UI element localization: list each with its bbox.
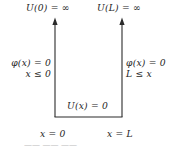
left-region-label: x ≤ 0 xyxy=(3,68,51,79)
right-region-label: L ≤ x xyxy=(126,68,176,79)
axis-origin-label: x = 0 xyxy=(40,128,66,139)
potential-label-right-barrier: U(L) = ∞ xyxy=(97,2,141,13)
right-wavefunction-label: φ(x) = 0 xyxy=(126,57,166,68)
right-wall-arrowhead xyxy=(119,18,124,26)
left-region-annotation: φ(x) = 0 x ≤ 0 xyxy=(3,57,51,79)
left-wavefunction-label: φ(x) = 0 xyxy=(11,57,51,68)
left-wall-arrowhead xyxy=(52,18,57,26)
infinite-square-well-figure: U(0) = ∞ U(L) = ∞ φ(x) = 0 x ≤ 0 φ(x) = … xyxy=(0,0,177,146)
axis-length-label: x = L xyxy=(107,128,133,139)
potential-label-left-barrier: U(0) = ∞ xyxy=(26,2,70,13)
right-region-annotation: φ(x) = 0 L ≤ x xyxy=(126,57,176,79)
inside-potential-label: U(x) = 0 xyxy=(67,100,108,111)
cropped-caption-remnant: —— —— —— xyxy=(24,140,154,146)
